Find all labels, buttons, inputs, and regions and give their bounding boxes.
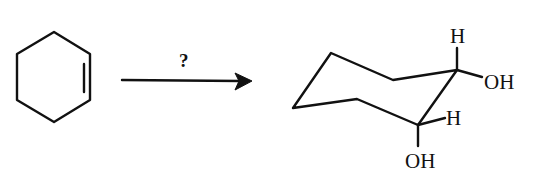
bond-c1-oh (457, 70, 482, 77)
reaction-arrow: ? (122, 50, 252, 90)
diol-chair-structure: H OH H OH (293, 24, 514, 173)
arrow-shaft (122, 80, 240, 81)
label-oh-bottom: OH (405, 149, 435, 173)
label-h-middle: H (446, 106, 461, 130)
chair-ring (293, 53, 457, 125)
cyclohexene-ring (17, 32, 90, 122)
label-oh-right: OH (484, 70, 514, 94)
cyclohexene-structure (17, 32, 90, 122)
reaction-scheme: ? H OH H OH (0, 0, 535, 183)
label-h-top: H (450, 24, 465, 48)
reagent-label: ? (179, 50, 189, 71)
